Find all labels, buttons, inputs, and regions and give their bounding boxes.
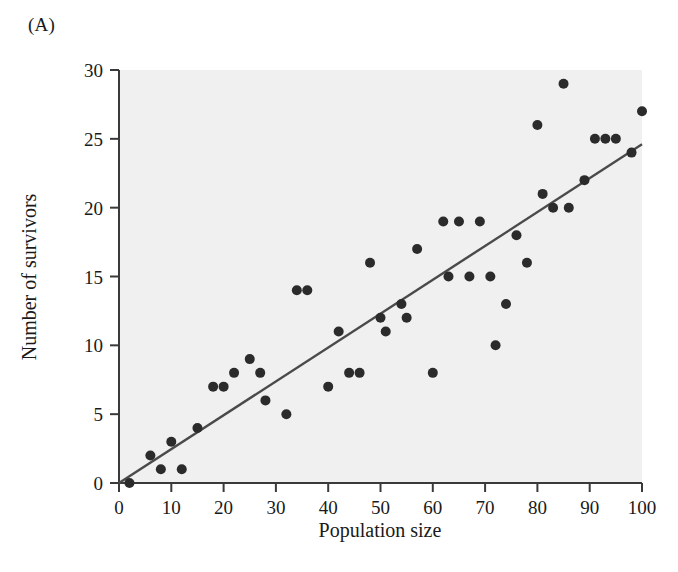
data-point — [260, 395, 270, 405]
data-point — [334, 327, 344, 337]
data-point — [475, 216, 485, 226]
x-axis-tick-label: 70 — [476, 497, 495, 518]
data-point — [145, 450, 155, 460]
y-axis-tick-label: 20 — [84, 198, 103, 219]
y-axis-tick-label: 0 — [94, 473, 104, 494]
x-axis-tick-label: 80 — [528, 497, 547, 518]
figure-panel-a: (A) 051015202530 0102030405060708090100 … — [0, 0, 678, 572]
y-axis-title: Number of survivors — [18, 193, 40, 360]
x-axis-tick-label: 20 — [214, 497, 233, 518]
data-point — [564, 203, 574, 213]
x-axis-tick-label: 0 — [114, 497, 124, 518]
data-point — [412, 244, 422, 254]
data-point — [579, 175, 589, 185]
data-point — [156, 464, 166, 474]
data-point — [627, 148, 637, 158]
plot-area-background — [119, 70, 642, 483]
data-point — [396, 299, 406, 309]
data-point — [177, 464, 187, 474]
data-point — [344, 368, 354, 378]
x-axis-title: Population size — [319, 519, 442, 542]
data-point — [522, 258, 532, 268]
data-point — [438, 216, 448, 226]
data-point — [464, 272, 474, 282]
data-point — [229, 368, 239, 378]
x-axis-tick-label: 90 — [580, 497, 599, 518]
data-point — [255, 368, 265, 378]
data-point — [323, 382, 333, 392]
x-axis-tick-label: 50 — [371, 497, 390, 518]
x-axis-tick-label: 10 — [162, 497, 181, 518]
data-point — [443, 272, 453, 282]
data-point — [611, 134, 621, 144]
data-point — [538, 189, 548, 199]
data-point — [219, 382, 229, 392]
data-point — [532, 120, 542, 130]
data-point — [166, 437, 176, 447]
y-axis-tick-label: 15 — [84, 267, 103, 288]
data-point — [637, 106, 647, 116]
y-axis-tick-label: 30 — [84, 60, 103, 81]
scatter-plot: 051015202530 0102030405060708090100 Popu… — [0, 0, 678, 572]
data-point — [485, 272, 495, 282]
y-axis-tick-label: 10 — [84, 335, 103, 356]
data-point — [454, 216, 464, 226]
y-axis-tick-label: 25 — [84, 129, 103, 150]
x-axis-ticks: 0102030405060708090100 — [114, 483, 656, 518]
data-point — [245, 354, 255, 364]
data-point — [428, 368, 438, 378]
y-axis-ticks: 051015202530 — [84, 60, 119, 494]
data-point — [511, 230, 521, 240]
data-point — [402, 313, 412, 323]
data-point — [501, 299, 511, 309]
data-point — [292, 285, 302, 295]
data-point — [365, 258, 375, 268]
data-point — [548, 203, 558, 213]
data-point — [600, 134, 610, 144]
data-point — [381, 327, 391, 337]
data-point — [376, 313, 386, 323]
data-point — [192, 423, 202, 433]
data-point — [590, 134, 600, 144]
data-point — [491, 340, 501, 350]
data-point — [124, 478, 134, 488]
x-axis-tick-label: 100 — [628, 497, 657, 518]
x-axis-tick-label: 40 — [319, 497, 338, 518]
data-point — [281, 409, 291, 419]
data-point — [355, 368, 365, 378]
y-axis-tick-label: 5 — [94, 404, 104, 425]
x-axis-tick-label: 30 — [266, 497, 285, 518]
x-axis-tick-label: 60 — [423, 497, 442, 518]
data-point — [208, 382, 218, 392]
data-point — [559, 79, 569, 89]
data-point — [302, 285, 312, 295]
